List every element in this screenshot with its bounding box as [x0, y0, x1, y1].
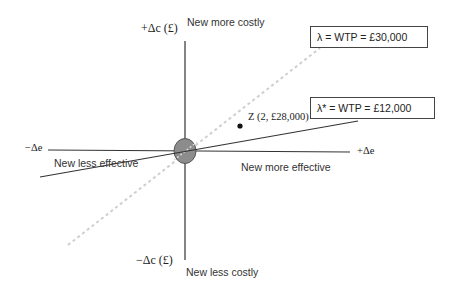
quadrant-label-left: New less effective: [54, 157, 138, 169]
point-z-marker: [237, 123, 242, 128]
wtp-30000-label-box: λ = WTP = £30,000: [310, 26, 428, 48]
x-negative-axis-label: −Δe: [25, 142, 42, 153]
quadrant-label-top: New more costly: [187, 16, 265, 28]
x-positive-axis-label: +Δe: [357, 145, 374, 156]
effect-axis: [48, 150, 350, 152]
quadrant-label-bottom: New less costly: [186, 266, 258, 278]
y-positive-axis-label: +Δc (£): [141, 21, 178, 36]
wtp-12000-label-box: λ* = WTP = £12,000: [310, 97, 435, 119]
y-negative-axis-label: −Δc (£): [136, 253, 173, 268]
point-z-label: Z (2, £28,000): [248, 111, 309, 122]
quadrant-label-right: New more effective: [241, 161, 331, 173]
